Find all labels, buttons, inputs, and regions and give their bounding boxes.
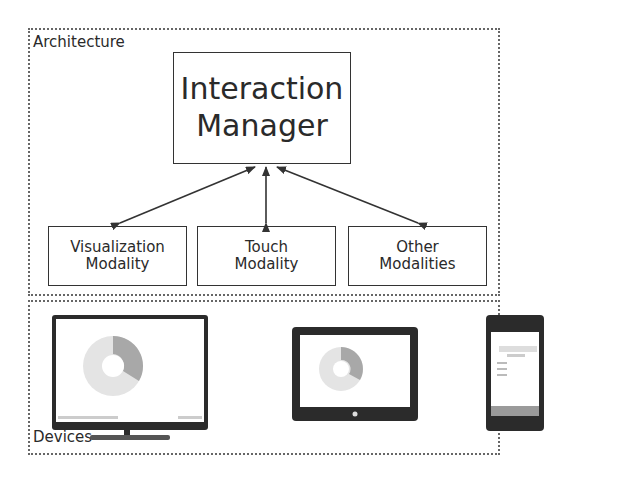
arrow-manager-other — [277, 167, 418, 223]
arrow-manager-visualization — [120, 167, 255, 223]
phone-device-icon — [485, 314, 545, 432]
tablet-device-icon — [291, 326, 419, 422]
tv-device-icon — [50, 313, 210, 443]
